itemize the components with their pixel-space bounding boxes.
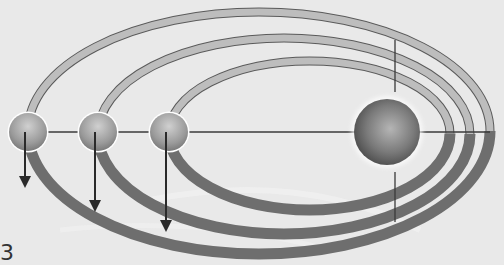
sphere-2 <box>78 112 119 153</box>
sphere-1 <box>8 112 49 153</box>
orbiting-spheres <box>8 112 190 153</box>
central-sphere <box>351 96 423 168</box>
orbit-diagram-svg <box>0 0 504 265</box>
sphere-3 <box>149 112 190 153</box>
orbit-diagram: 3 <box>0 0 504 265</box>
figure-label: 3 <box>0 242 14 264</box>
